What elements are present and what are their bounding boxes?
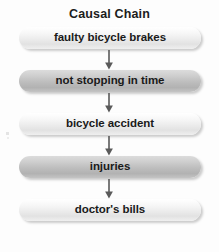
arrow-down-icon [102,93,116,113]
chain-node-pill: faulty bicycle brakes [19,27,201,49]
chain-node-label: bicycle accident [66,118,154,130]
chain-connector [0,179,219,199]
diagram-title: Causal Chain [0,7,219,21]
chain-node: injuries [0,156,219,179]
chain-connector [0,50,219,70]
causal-chain-diagram: Causal Chain faulty bicycle brakesnot st… [0,0,219,252]
arrow-down-icon [102,179,116,199]
chain-container: faulty bicycle brakesnot stopping in tim… [0,27,219,222]
chain-node: doctor's bills [0,199,219,222]
chain-connector [0,93,219,113]
chain-node-pill: not stopping in time [19,70,201,92]
arrow-down-icon [102,50,116,70]
chain-node-pill: doctor's bills [19,199,201,221]
chain-connector [0,136,219,156]
chain-node: bicycle accident [0,113,219,136]
chain-node: faulty bicycle brakes [0,27,219,50]
chain-node-pill: injuries [19,156,201,178]
chain-node-label: not stopping in time [56,75,165,87]
arrow-down-icon [102,136,116,156]
chain-node-label: doctor's bills [75,204,145,216]
chain-node-label: faulty bicycle brakes [54,32,166,44]
chain-node: not stopping in time [0,70,219,93]
chain-node-pill: bicycle accident [19,113,201,135]
chain-node-label: injuries [90,161,131,173]
